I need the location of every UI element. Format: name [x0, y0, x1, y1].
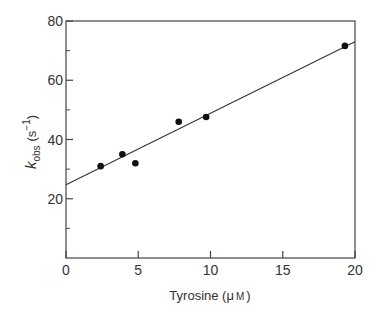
- x-tick-label: 20: [347, 262, 363, 278]
- y-tick-label: 20: [47, 191, 63, 207]
- y-axis-ticks: 20406080: [47, 13, 73, 228]
- data-point: [119, 151, 126, 158]
- x-axis-title: Tyrosine (μM): [169, 288, 250, 303]
- x-tick-label: 10: [203, 262, 219, 278]
- data-point: [132, 160, 139, 167]
- data-point: [97, 163, 104, 170]
- data-point: [342, 43, 349, 50]
- data-point: [203, 114, 210, 121]
- fit-line: [66, 42, 355, 185]
- y-tick-label: 40: [47, 132, 63, 148]
- y-axis-title: kobs(s−1): [21, 115, 42, 169]
- data-point: [175, 118, 182, 125]
- x-tick-label: 15: [275, 262, 291, 278]
- chart: 20406080 05101520 Tyrosine (μM) kobs(s−1…: [0, 0, 379, 312]
- x-axis-ticks: 05101520: [62, 251, 363, 278]
- x-tick-label: 0: [62, 262, 70, 278]
- x-tick-label: 5: [134, 262, 142, 278]
- y-tick-label: 80: [47, 13, 63, 29]
- y-tick-label: 60: [47, 72, 63, 88]
- regression-line: [66, 42, 355, 185]
- plot-frame: [66, 21, 355, 258]
- plot-border: [66, 21, 355, 258]
